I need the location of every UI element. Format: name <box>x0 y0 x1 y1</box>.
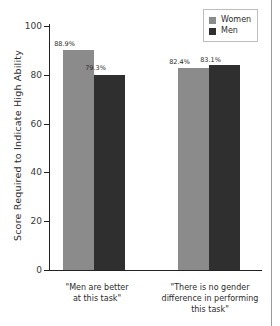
x-axis-line <box>49 270 262 271</box>
category-label-1-line-2: at this task" <box>38 293 156 304</box>
bar-label-men-group2: 83.1% <box>195 57 226 64</box>
legend-label-men: Men <box>221 27 238 35</box>
legend-swatch-men-icon <box>209 28 216 35</box>
bar-men-group2[interactable] <box>209 65 240 270</box>
category-label-2: "There is no gender difference in perfor… <box>149 282 271 315</box>
y-tick-label-80: 80 <box>0 71 42 80</box>
y-tick-label-40: 40 <box>0 168 42 177</box>
legend-item-women[interactable]: Women <box>209 15 251 25</box>
legend-item-men[interactable]: Men <box>209 26 251 36</box>
y-tick-label-0: 0 <box>0 266 42 275</box>
category-label-1-line-1: "Men are better <box>38 282 156 293</box>
figure-right-border <box>271 0 272 326</box>
category-label-1: "Men are better at this task" <box>38 282 156 304</box>
legend-swatch-women-icon <box>209 17 216 24</box>
category-label-2-line-2: difference in performing <box>149 293 271 304</box>
plot-area <box>49 26 271 270</box>
y-tick-label-20: 20 <box>0 217 42 226</box>
bar-label-women-group1: 88.9% <box>49 41 80 48</box>
bar-label-women-group2: 82.4% <box>164 59 195 66</box>
category-label-2-line-3: this task" <box>149 304 271 315</box>
y-tick-label-100: 100 <box>0 22 42 31</box>
y-tick-label-60: 60 <box>0 120 42 129</box>
y-axis-title: Score Required to Indicate High Ability <box>12 26 23 266</box>
bar-men-group1[interactable] <box>94 75 125 270</box>
bar-women-group1[interactable] <box>63 50 94 270</box>
legend: Women Men <box>203 9 258 42</box>
y-tick-0 <box>44 270 49 271</box>
legend-label-women: Women <box>221 16 251 24</box>
bar-chart-figure: Score Required to Indicate High Ability … <box>0 0 280 326</box>
category-label-2-line-1: "There is no gender <box>149 282 271 293</box>
bar-women-group2[interactable] <box>178 68 209 271</box>
bar-label-men-group1: 79.3% <box>80 65 111 72</box>
